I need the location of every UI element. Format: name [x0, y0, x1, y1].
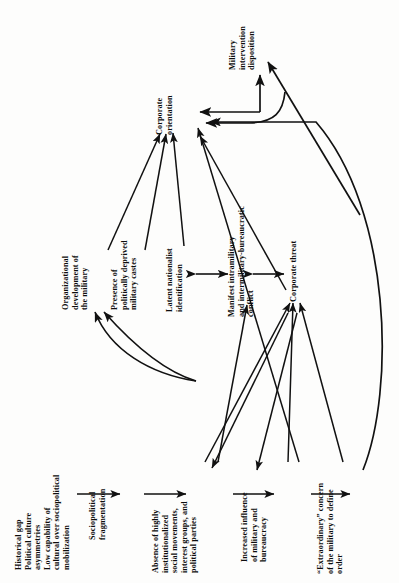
edge-absence-to-corporate-threat: [205, 303, 290, 462]
node-line: of the military to define: [326, 483, 336, 574]
node-line: Historical gap: [14, 475, 24, 570]
node-line: order: [335, 483, 345, 574]
node-line: bureaucracy: [259, 492, 269, 562]
node-increased-influence: Increased influence of military and bure…: [240, 492, 269, 562]
node-line: identification: [175, 248, 185, 312]
node-corporate-orientation: Corporate orientation: [155, 95, 174, 135]
node-line: disposition: [247, 26, 257, 70]
node-line: interest groups, and: [180, 501, 190, 573]
node-latent-nationalist: Latent nationalist identification: [165, 248, 184, 312]
diagram-canvas: Historical gap Political culture asymmet…: [0, 0, 399, 583]
node-organizational-development: Organizational development of the milita…: [61, 255, 90, 310]
node-line: Corporate threat: [289, 241, 299, 302]
edge-extraordinary-to-corporate-threat: [300, 303, 343, 462]
edge-latent-to-orientation: [173, 133, 184, 246]
node-line: and intermilitary-bureaucratic: [237, 206, 247, 317]
node-line: of military and: [250, 492, 260, 562]
node-line: “Extraordinary” concern: [316, 483, 326, 574]
edge-influence-to-orgdev-curve: [95, 312, 196, 381]
node-line: cultural over sociopolitical: [52, 475, 62, 570]
node-line: political parties: [189, 501, 199, 573]
node-line: Sociopolitical: [88, 489, 98, 540]
node-line: fragmentation: [98, 489, 108, 540]
node-line: Latent nationalist: [165, 248, 175, 312]
node-line: Military: [228, 26, 238, 70]
node-line: asymmetries: [33, 475, 43, 570]
node-line: Absence of highly: [151, 501, 161, 573]
node-line: social movements,: [170, 501, 180, 573]
edge-intervention-feedback-diagonal: [268, 62, 360, 215]
node-line: Manifest intramilitary: [227, 206, 237, 317]
node-line: military castes: [129, 240, 139, 310]
node-line: conflict: [246, 206, 256, 317]
node-line: Organizational: [61, 255, 71, 310]
node-extraordinary-concern: “Extraordinary” concern of the military …: [316, 483, 345, 574]
node-line: Presence of: [110, 240, 120, 310]
node-military-intervention: Military intervention disposition: [228, 26, 257, 70]
edge-orgdev-to-orientation: [108, 134, 160, 250]
node-manifest-conflict: Manifest intramilitary and intermilitary…: [227, 206, 256, 317]
edge-intervention-feedback-hook: [206, 92, 285, 123]
node-line: Political culture: [24, 475, 34, 570]
node-sociopolitical-fragmentation: Sociopolitical fragmentation: [88, 489, 107, 540]
node-line: development of: [71, 255, 81, 310]
edge-absence-to-manifest: [218, 305, 247, 462]
node-line: Corporate: [155, 95, 165, 135]
edge-castes-to-orientation: [145, 134, 166, 250]
node-line: politically deprived: [120, 240, 130, 310]
node-corporate-threat: Corporate threat: [289, 241, 299, 302]
node-line: institutionalized: [161, 501, 171, 573]
node-line: Increased influence: [240, 492, 250, 562]
node-line: mobilization: [62, 475, 72, 570]
node-line: the military: [80, 255, 90, 310]
node-line: orientation: [165, 95, 175, 135]
node-line: Low capability of: [43, 475, 53, 570]
node-absence-institutionalized: Absence of highly institutionalized soci…: [151, 501, 199, 573]
node-line: intervention: [238, 26, 248, 70]
node-presence-deprived-castes: Presence of politically deprived militar…: [110, 240, 139, 310]
node-historical-gap: Historical gap Political culture asymmet…: [14, 475, 72, 570]
